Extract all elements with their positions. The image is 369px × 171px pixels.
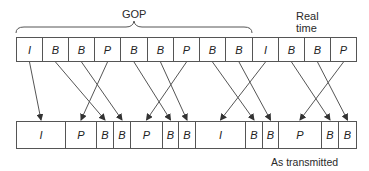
frame-reorder-arrow (81, 62, 108, 120)
top-frame-11: B (304, 37, 331, 62)
frame-reorder-arrow (239, 62, 271, 120)
bottom-frame-2: B (96, 121, 114, 149)
gop-brace (16, 21, 252, 33)
frame-reorder-arrow (292, 62, 331, 120)
bottom-frame-6: B (178, 121, 196, 149)
bottom-frame-10: P (278, 121, 322, 149)
top-frame-1: B (42, 37, 69, 62)
top-frame-4: B (120, 37, 148, 62)
top-frame-2: B (68, 37, 95, 62)
top-frame-5: B (147, 37, 174, 62)
top-frame-10: B (278, 37, 305, 62)
top-frame-0: I (16, 37, 43, 62)
top-frame-6: P (173, 37, 200, 62)
frame-reorder-arrow (221, 62, 266, 120)
top-frame-8: B (225, 37, 253, 62)
frame-reorder-arrow (82, 62, 123, 120)
top-frame-3: P (94, 37, 121, 62)
frame-reorder-arrow (213, 62, 255, 120)
real-time-label-line2: time (296, 23, 317, 34)
top-frame-12: P (330, 37, 357, 62)
bottom-frame-7: I (195, 121, 246, 149)
bottom-frame-1: P (65, 121, 97, 149)
top-frame-9: I (252, 37, 279, 62)
as-transmitted-label: As transmitted (271, 157, 338, 168)
real-time-label-line1: Real (296, 11, 319, 22)
bottom-frame-4: P (130, 121, 163, 149)
frame-reorder-arrow (30, 62, 42, 120)
bottom-frame-3: B (113, 121, 131, 149)
bottom-frame-8: B (245, 121, 263, 149)
bottom-frame-5: B (162, 121, 179, 149)
top-frame-7: B (199, 37, 226, 62)
bottom-frame-0: I (16, 121, 66, 149)
bottom-frame-11: B (321, 121, 339, 149)
frame-reorder-arrow (56, 62, 106, 120)
bottom-frame-12: B (338, 121, 357, 149)
bottom-frame-9: B (262, 121, 279, 149)
gop-label: GOP (122, 9, 146, 20)
